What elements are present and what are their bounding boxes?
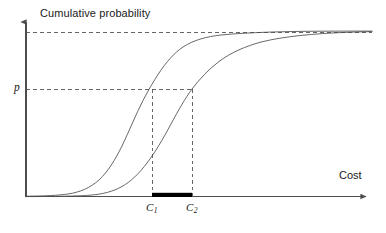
- c2-tick-label: C2: [186, 202, 197, 213]
- c1-base: C: [146, 201, 153, 213]
- figure-container: Cumulative probability Cost p C1 C2: [0, 0, 386, 233]
- x-axis-title: Cost: [339, 170, 362, 181]
- cdf-curve-2: [26, 32, 372, 197]
- c2-base: C: [186, 201, 193, 213]
- cdf-plot-svg: [0, 0, 386, 233]
- c1-subscript: 1: [154, 206, 158, 215]
- cdf-curve-1: [26, 31, 372, 196]
- c2-subscript: 2: [194, 206, 198, 215]
- y-axis-title: Cumulative probability: [40, 8, 150, 19]
- c1-tick-label: C1: [146, 202, 157, 213]
- p-tick-label: p: [14, 82, 20, 94]
- cost-difference-bar: [152, 193, 192, 197]
